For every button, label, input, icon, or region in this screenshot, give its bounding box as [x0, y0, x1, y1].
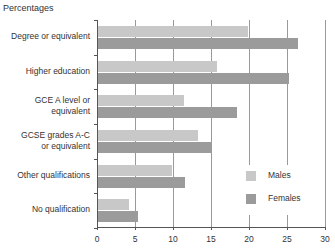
- bar-males: [98, 26, 248, 37]
- x-tick: [97, 227, 98, 230]
- category-label-line: No qualification: [0, 204, 90, 215]
- y-tick: [94, 228, 97, 229]
- bar-females: [98, 107, 237, 118]
- y-tick: [94, 193, 97, 194]
- bar-males: [98, 130, 198, 141]
- legend-swatch-females: [246, 194, 256, 204]
- legend-label-females: Females: [268, 193, 301, 203]
- gridline: [211, 20, 212, 228]
- y-tick: [94, 55, 97, 56]
- bar-males: [98, 61, 217, 72]
- category-label-line: or equivalent: [0, 141, 90, 152]
- x-tick: [287, 227, 288, 230]
- x-tick-label: 5: [125, 234, 145, 244]
- category-label-line: GCE A level or: [0, 95, 90, 106]
- legend: Males Females: [240, 165, 315, 215]
- y-axis-line: [97, 20, 98, 228]
- gridline: [325, 20, 326, 228]
- category-label: GCE A level orequivalent: [0, 95, 90, 116]
- x-tick: [211, 227, 212, 230]
- bar-males: [98, 95, 184, 106]
- category-label-line: GCSE grades A-C: [0, 130, 90, 141]
- legend-swatch-males: [246, 171, 256, 181]
- bar-females: [98, 38, 298, 49]
- legend-label-males: Males: [268, 170, 291, 180]
- bar-females: [98, 73, 289, 84]
- x-tick-label: 15: [201, 234, 221, 244]
- category-label: GCSE grades A-Cor equivalent: [0, 130, 90, 151]
- y-tick: [94, 159, 97, 160]
- y-axis-title: Percentages: [3, 3, 54, 13]
- x-tick-label: 30: [315, 234, 335, 244]
- x-tick-label: 0: [87, 234, 107, 244]
- bar-females: [98, 177, 185, 188]
- y-tick: [94, 124, 97, 125]
- x-tick-label: 20: [239, 234, 259, 244]
- x-tick: [135, 227, 136, 230]
- gridline: [173, 20, 174, 228]
- category-label-line: Other qualifications: [0, 170, 90, 181]
- x-tick-label: 10: [163, 234, 183, 244]
- category-label-line: Degree or equivalent: [0, 31, 90, 42]
- category-label: No qualification: [0, 204, 90, 215]
- category-label: Higher education: [0, 66, 90, 77]
- category-label-line: Higher education: [0, 66, 90, 77]
- category-label-line: equivalent: [0, 106, 90, 117]
- category-label: Other qualifications: [0, 170, 90, 181]
- x-tick-label: 25: [277, 234, 297, 244]
- bar-males: [98, 199, 129, 210]
- gridline: [135, 20, 136, 228]
- y-tick: [94, 89, 97, 90]
- bar-males: [98, 165, 172, 176]
- bar-females: [98, 142, 212, 153]
- category-label: Degree or equivalent: [0, 31, 90, 42]
- x-tick: [173, 227, 174, 230]
- x-tick: [325, 227, 326, 230]
- x-tick: [249, 227, 250, 230]
- y-tick: [94, 20, 97, 21]
- bar-females: [98, 211, 138, 222]
